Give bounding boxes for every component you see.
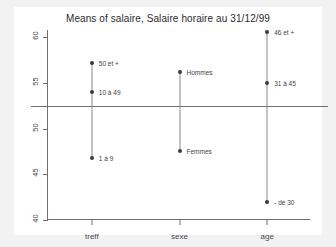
group-connector-line: [267, 32, 268, 202]
data-point[interactable]: [265, 200, 269, 204]
data-point[interactable]: [265, 81, 269, 85]
y-axis-tick: [43, 37, 48, 38]
x-axis-tick: [179, 220, 180, 225]
y-axis-tick: [43, 83, 48, 84]
x-axis-tick: [91, 220, 92, 225]
x-axis-tick: [267, 220, 268, 225]
chart-title: Means of salaire, Salaire horaire au 31/…: [14, 13, 322, 24]
data-point-label: 50 et +: [95, 59, 119, 66]
group-connector-line: [91, 63, 92, 158]
data-point[interactable]: [90, 90, 94, 94]
x-axis-label-age: age: [260, 232, 273, 241]
x-axis-label-treff: treff: [85, 232, 99, 241]
plot-panel: 4045505560 50 et +10 à 491 à 9HommesFemm…: [47, 30, 310, 220]
data-point-label: Femmes: [183, 147, 212, 154]
data-point[interactable]: [90, 61, 94, 65]
data-point-label: 46 et +: [270, 28, 294, 35]
data-point[interactable]: [178, 70, 182, 74]
data-point[interactable]: [265, 30, 269, 34]
data-point-label: 10 à 49: [95, 89, 121, 96]
x-axis-label-sexe: sexe: [171, 232, 188, 241]
data-point-label: - de 30: [270, 198, 294, 205]
group-connector-line: [179, 72, 180, 151]
data-point[interactable]: [90, 156, 94, 160]
data-point[interactable]: [178, 149, 182, 153]
y-axis-tick: [43, 220, 48, 221]
data-point-label: Hommes: [183, 69, 213, 76]
data-point-label: 1 à 9: [95, 154, 113, 161]
y-axis-tick-label: 55: [31, 71, 40, 91]
data-point-label: 31 à 45: [270, 79, 296, 86]
y-axis-tick-label: 40: [31, 209, 40, 229]
y-axis-tick-label: 60: [31, 26, 40, 46]
y-axis-tick: [43, 129, 48, 130]
means-plot-figure: Means of salaire, Salaire horaire au 31/…: [0, 0, 336, 247]
y-axis-tick: [43, 174, 48, 175]
y-axis-tick-label: 45: [31, 163, 40, 183]
y-axis-tick-label: 50: [31, 117, 40, 137]
